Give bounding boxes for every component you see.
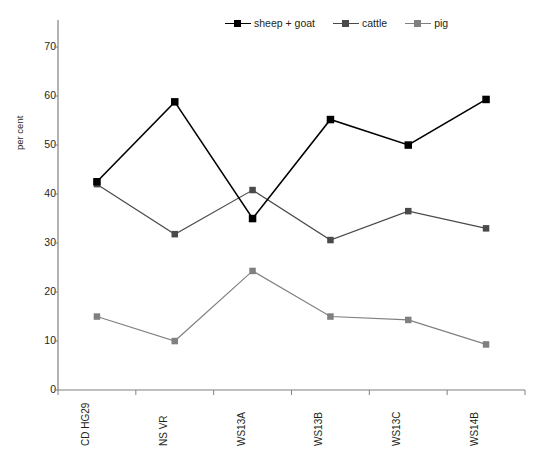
data-point-marker (405, 208, 412, 215)
data-point-marker (172, 231, 179, 238)
data-point-marker (327, 237, 334, 244)
series-sheep-goat (93, 96, 490, 223)
series-cattle (94, 181, 490, 243)
chart-container: sheep + goat cattle pig per cent 0102030… (0, 0, 542, 460)
data-point-marker (94, 313, 101, 320)
data-point-marker (172, 338, 179, 345)
series-line (97, 99, 486, 218)
data-point-marker (249, 268, 256, 275)
data-point-marker (482, 96, 490, 104)
data-point-marker (249, 215, 256, 223)
plot-area (0, 0, 542, 460)
data-point-marker (93, 178, 101, 186)
data-point-marker (483, 341, 490, 348)
series-line (97, 184, 486, 240)
data-point-marker (171, 98, 179, 106)
data-point-marker (249, 187, 256, 194)
data-point-marker (483, 225, 490, 232)
data-point-marker (405, 317, 412, 324)
series-pig (94, 268, 490, 348)
data-point-marker (327, 116, 335, 124)
series-line (97, 271, 486, 345)
data-point-marker (327, 313, 334, 320)
data-point-marker (405, 141, 413, 149)
